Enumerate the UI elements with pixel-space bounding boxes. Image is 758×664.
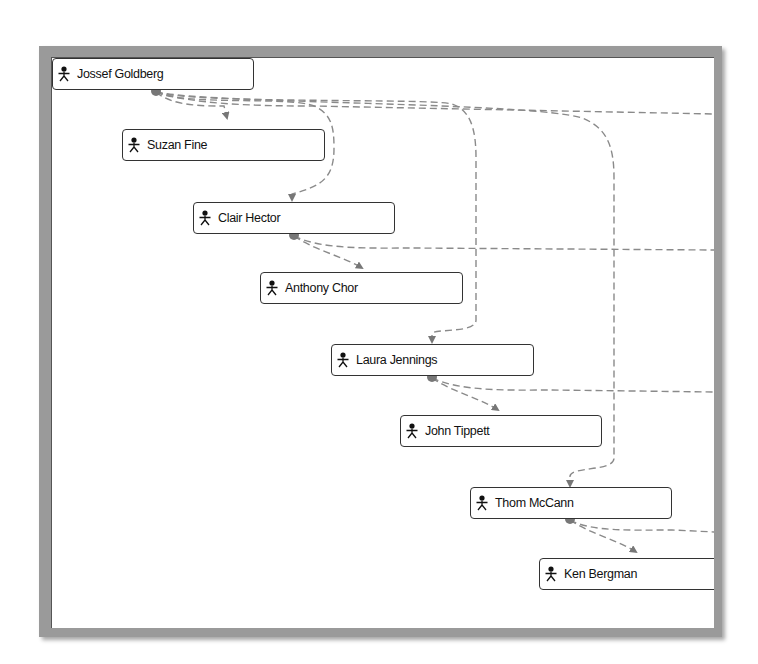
node-john-tippett[interactable]: John Tippett [400, 415, 602, 447]
link-jossef-offscreen[interactable] [156, 92, 714, 114]
diagram-canvas[interactable]: Jossef Goldberg Suzan Fine Clair Hector … [51, 57, 714, 628]
node-ken-bergman[interactable]: Ken Bergman [539, 558, 714, 590]
actor-icon [127, 137, 141, 153]
link-laura-john[interactable] [432, 378, 498, 410]
node-label: Ken Bergman [564, 567, 637, 581]
node-suzan-fine[interactable]: Suzan Fine [122, 129, 325, 161]
node-thom-mccann[interactable]: Thom McCann [470, 487, 672, 519]
actor-icon [57, 66, 71, 82]
node-clair-hector[interactable]: Clair Hector [193, 202, 395, 234]
node-label: Clair Hector [218, 211, 280, 225]
link-clair-offscreen[interactable] [294, 236, 714, 250]
actor-icon [336, 352, 350, 368]
actor-icon [198, 210, 212, 226]
node-label: Laura Jennings [356, 353, 437, 367]
actor-icon [265, 280, 279, 296]
node-label: Suzan Fine [147, 138, 207, 152]
link-thom-ken[interactable] [570, 520, 636, 552]
link-thom-offscreen[interactable] [570, 520, 714, 532]
link-laura-offscreen[interactable] [432, 378, 714, 392]
actor-icon [544, 566, 558, 582]
actor-icon [475, 495, 489, 511]
node-anthony-chor[interactable]: Anthony Chor [260, 272, 463, 304]
node-label: Jossef Goldberg [77, 67, 164, 81]
node-jossef-goldberg[interactable]: Jossef Goldberg [52, 58, 254, 90]
node-label: Anthony Chor [285, 281, 358, 295]
node-label: Thom McCann [495, 496, 574, 510]
actor-icon [405, 423, 419, 439]
node-label: John Tippett [425, 424, 490, 438]
node-laura-jennings[interactable]: Laura Jennings [331, 344, 534, 376]
